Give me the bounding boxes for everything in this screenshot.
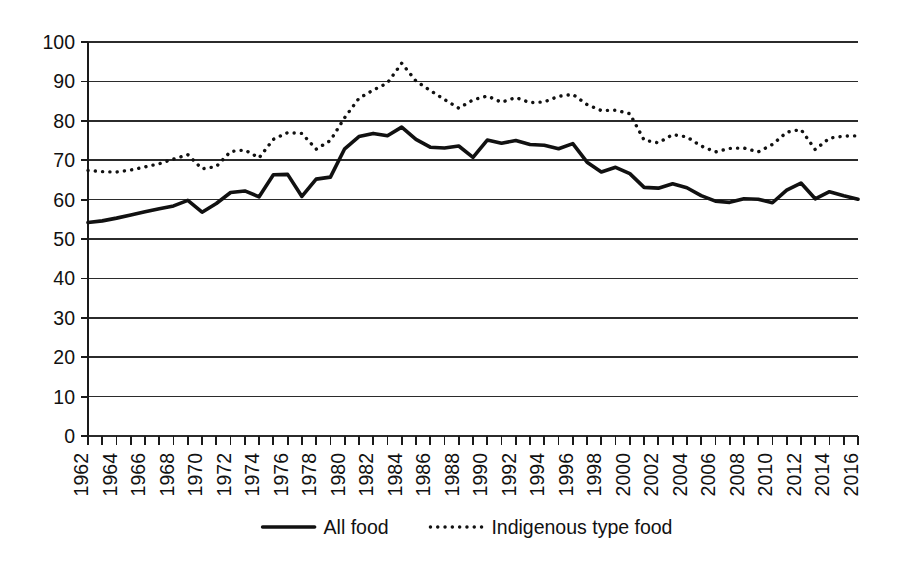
x-tick-label-1980: 1980 <box>327 453 349 497</box>
y-tick-label-10: 10 <box>53 386 75 408</box>
x-axis-tick-labels: 1962196419661968197019721974197619781980… <box>70 453 862 497</box>
gridlines <box>88 42 858 436</box>
x-tick-label-1986: 1986 <box>412 453 434 496</box>
y-tick-label-80: 80 <box>53 110 75 132</box>
x-tick-label-1964: 1964 <box>99 453 121 497</box>
y-tick-label-60: 60 <box>53 189 75 211</box>
y-tick-label-0: 0 <box>64 425 75 447</box>
legend-label: Indigenous type food <box>491 516 672 538</box>
x-tick-label-2000: 2000 <box>612 453 634 497</box>
x-tick-label-1990: 1990 <box>469 453 491 497</box>
x-tick-label-1984: 1984 <box>384 453 406 497</box>
y-tick-label-40: 40 <box>53 267 75 289</box>
x-tick-label-1976: 1976 <box>270 453 292 496</box>
x-tick-label-2004: 2004 <box>669 453 691 497</box>
x-tick-label-1966: 1966 <box>127 453 149 496</box>
x-tick-label-1962: 1962 <box>70 453 92 496</box>
line-chart: 0102030405060708090100 19621964196619681… <box>0 0 900 561</box>
x-tick-label-2016: 2016 <box>840 453 862 496</box>
y-tick-label-30: 30 <box>53 307 75 329</box>
x-tick-label-1994: 1994 <box>526 453 548 497</box>
y-tick-label-50: 50 <box>53 228 75 250</box>
x-tick-label-1970: 1970 <box>184 453 206 497</box>
series-line-all-food <box>88 127 858 222</box>
chart-canvas: 0102030405060708090100 19621964196619681… <box>0 0 900 561</box>
x-tick-label-2010: 2010 <box>754 453 776 497</box>
y-tick-label-90: 90 <box>53 70 75 92</box>
y-tick-label-20: 20 <box>53 346 75 368</box>
x-tick-label-1992: 1992 <box>498 453 520 496</box>
legend-label: All food <box>324 516 389 538</box>
legend-item-all-food: All food <box>263 516 389 538</box>
x-tick-label-1982: 1982 <box>355 453 377 496</box>
x-tick-label-2002: 2002 <box>640 453 662 496</box>
x-tick-label-1988: 1988 <box>441 453 463 496</box>
x-tick-label-2014: 2014 <box>811 453 833 497</box>
x-tick-label-1998: 1998 <box>583 453 605 496</box>
x-tick-label-1978: 1978 <box>298 453 320 496</box>
legend-item-indigenous-type-food: Indigenous type food <box>430 516 672 538</box>
chart-legend: All foodIndigenous type food <box>263 516 673 538</box>
y-axis-tick-labels: 0102030405060708090100 <box>42 31 75 447</box>
y-tick-label-100: 100 <box>42 31 75 53</box>
y-tick-label-70: 70 <box>53 149 75 171</box>
x-tick-label-1996: 1996 <box>555 453 577 496</box>
x-tick-label-1972: 1972 <box>213 453 235 496</box>
x-tick-label-1968: 1968 <box>156 453 178 496</box>
x-tick-label-1974: 1974 <box>241 453 263 497</box>
x-axis-ticks <box>88 436 858 445</box>
data-series <box>88 63 858 222</box>
x-tick-label-2008: 2008 <box>726 453 748 496</box>
x-tick-label-2012: 2012 <box>783 453 805 496</box>
x-tick-label-2006: 2006 <box>697 453 719 496</box>
